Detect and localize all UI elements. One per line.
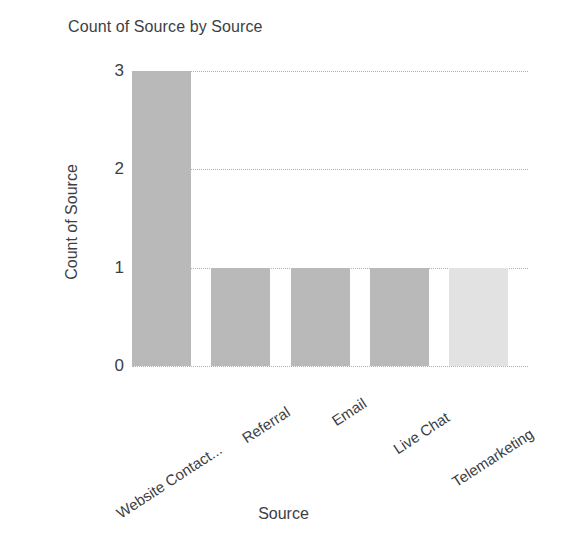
x-tick-label: Live Chat <box>390 409 452 458</box>
x-tick-label: Email <box>329 394 370 429</box>
y-tick-label: 0 <box>84 356 124 376</box>
x-axis-title: Source <box>0 505 567 523</box>
chart-title: Count of Source by Source <box>68 18 263 36</box>
y-axis-ticks: 0123 <box>84 71 124 366</box>
x-axis-ticks: Website Contact...ReferralEmailLive Chat… <box>132 366 528 496</box>
bar-chart: Count of Source by Source 0123 Count of … <box>0 0 567 556</box>
x-tick-label: Telemarketing <box>449 425 537 490</box>
bar[interactable] <box>211 268 270 366</box>
plot-area <box>132 71 528 366</box>
y-tick-label: 1 <box>84 258 124 278</box>
bar[interactable] <box>370 268 429 366</box>
bar[interactable] <box>291 268 350 366</box>
bar[interactable] <box>132 71 191 366</box>
bar[interactable] <box>449 268 508 366</box>
x-tick-label: Referral <box>239 403 293 446</box>
y-axis-title: Count of Source <box>63 164 81 280</box>
bars-group <box>132 71 528 366</box>
y-tick-label: 2 <box>84 159 124 179</box>
y-tick-label: 3 <box>84 61 124 81</box>
